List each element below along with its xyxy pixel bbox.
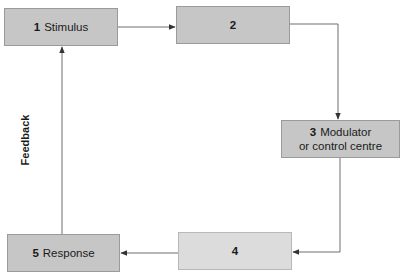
node-5-response: 5 Response	[7, 234, 120, 272]
node-1-number: 1	[34, 20, 40, 34]
feedback-label: Feedback	[19, 115, 31, 166]
node-3-label-line2: or control centre	[299, 139, 382, 153]
node-5-label: Response	[43, 246, 95, 260]
node-3-label-line1: Modulator	[320, 126, 371, 138]
node-3-number: 3	[310, 126, 316, 138]
node-1-label: Stimulus	[44, 20, 88, 34]
node-3-modulator: 3Modulator or control centre	[281, 120, 400, 158]
node-4-number: 4	[232, 244, 238, 258]
arrow-2-to-3	[290, 24, 338, 119]
node-2-number: 2	[230, 18, 236, 32]
node-1-stimulus: 1 Stimulus	[4, 8, 118, 46]
arrow-3-to-4	[293, 158, 340, 252]
node-4: 4	[178, 232, 292, 270]
node-5-number: 5	[32, 246, 38, 260]
node-2: 2	[176, 6, 290, 44]
